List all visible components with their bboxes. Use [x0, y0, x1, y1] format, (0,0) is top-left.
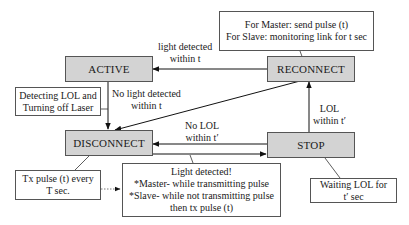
label-line: within t: [158, 53, 212, 65]
note-reconnect-line-1: For Master: send pulse (t): [220, 19, 373, 31]
state-disconnect: DISCONNECT: [65, 130, 153, 156]
note-reconnect: For Master: send pulse (t) For Slave: mo…: [219, 11, 374, 51]
note-disconnect-line-2: T sec.: [16, 185, 100, 197]
note-stop-line-1: Waiting LOL for: [311, 179, 396, 191]
label-line: within t′: [185, 132, 219, 144]
state-active: ACTIVE: [65, 56, 153, 82]
label-line: No LOL: [185, 120, 219, 132]
label-reconnect-to-active: light detected within t: [158, 41, 212, 65]
label-line: within t′: [313, 115, 346, 127]
note-light-line-4: then tx pulse (t): [123, 202, 280, 214]
note-light-detected: Light detected! *Master- while transmitt…: [122, 163, 281, 217]
note-light-line-1: Light detected!: [123, 166, 280, 178]
label-line: No light detected: [112, 88, 181, 100]
note-disconnect: Tx pulse (t) every T sec.: [15, 170, 101, 200]
label-active-to-disconnect: No light detected within t: [112, 88, 181, 112]
note-light-line-2: *Master- while transmitting pulse: [123, 178, 280, 190]
label-line: LOL: [313, 103, 346, 115]
note-stop-line-2: t′ sec: [311, 191, 396, 203]
label-stop-to-reconnect: LOL within t′: [313, 103, 346, 127]
note-active: Detecting LOL and Turning off Laser: [15, 87, 101, 116]
state-stop: STOP: [267, 132, 355, 158]
label-stop-to-disconnect: No LOL within t′: [185, 120, 219, 144]
note-light-line-3: *Slave- while not transmitting pulse: [123, 190, 280, 202]
label-line: light detected: [158, 41, 212, 53]
state-reconnect: RECONNECT: [267, 56, 355, 82]
note-active-line-2: Turning off Laser: [16, 102, 100, 114]
note-disconnect-line-1: Tx pulse (t) every: [16, 173, 100, 185]
label-line: within t: [112, 100, 181, 112]
note-stop: Waiting LOL for t′ sec: [310, 178, 397, 203]
note-reconnect-line-2: For Slave: monitoring link for t sec: [220, 31, 373, 43]
note-active-line-1: Detecting LOL and: [16, 90, 100, 102]
